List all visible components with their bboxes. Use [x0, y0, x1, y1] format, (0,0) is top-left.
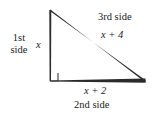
label-third-side-length: x + 4 [101, 29, 123, 41]
right-angle-marker-icon [50, 73, 58, 81]
label-second-side: 2nd side [74, 99, 109, 111]
label-vertical-leg-length: x [36, 39, 41, 51]
horizontal-base-side [50, 79, 146, 83]
geometry-figure: 1st side x 3rd side x + 4 x + 2 2nd side [0, 0, 155, 116]
label-third-side: 3rd side [98, 11, 132, 23]
label-first-side: 1st side [4, 32, 34, 55]
vertical-leg-side [49, 10, 51, 81]
label-first-side-line2: side [4, 44, 34, 56]
label-second-side-length: x + 2 [84, 85, 106, 97]
label-first-side-line1: 1st [4, 32, 34, 44]
